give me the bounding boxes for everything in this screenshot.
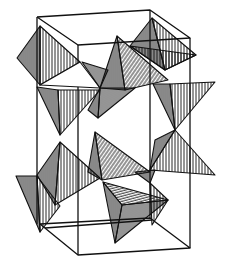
polyhedron-lower-left [16,142,100,232]
polyhedron-top-left [17,26,100,88]
crystal-structure-diagram [0,0,225,265]
polyhedron-mid-right [150,82,215,175]
polyhedron-lower-center [103,170,168,243]
